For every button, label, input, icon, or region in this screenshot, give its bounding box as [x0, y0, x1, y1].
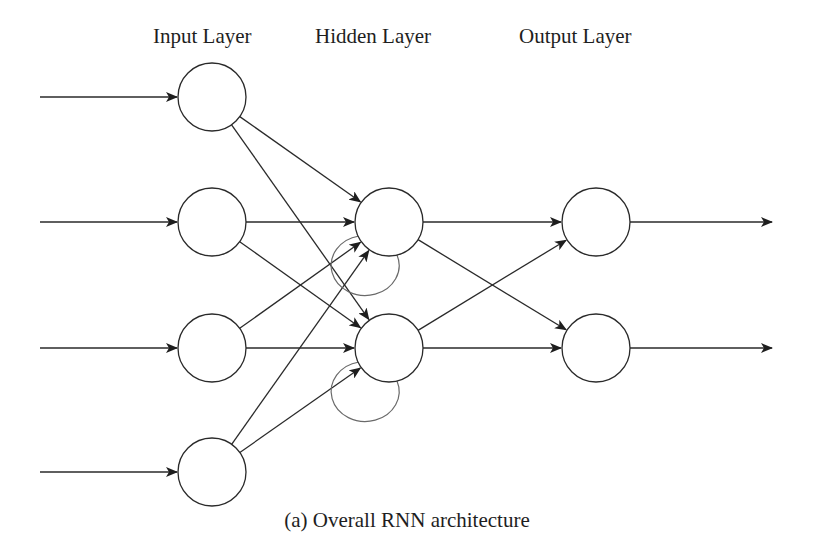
connection-arrow: [240, 117, 361, 202]
input-neuron: [178, 438, 246, 506]
input-neuron: [178, 314, 246, 382]
output-neuron: [562, 188, 630, 256]
hidden-neuron: [355, 188, 423, 256]
input-neuron: [178, 63, 246, 131]
output-neuron: [562, 314, 630, 382]
connections: [40, 97, 772, 472]
neurons: [178, 63, 630, 506]
hidden-neuron: [355, 314, 423, 382]
input-neuron: [178, 188, 246, 256]
figure-caption: (a) Overall RNN architecture: [0, 508, 814, 533]
rnn-diagram: [0, 0, 814, 547]
connection-arrow: [240, 368, 360, 452]
